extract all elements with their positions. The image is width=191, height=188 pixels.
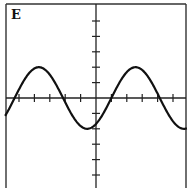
chart: E: [0, 0, 191, 188]
panel-label: E: [11, 7, 21, 22]
